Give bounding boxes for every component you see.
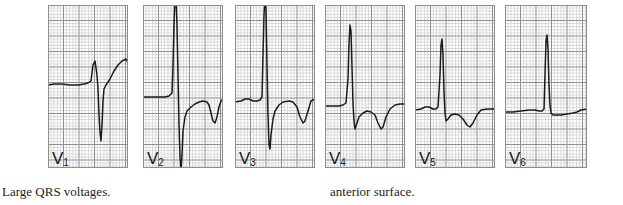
caption-right: anterior surface. bbox=[330, 184, 414, 200]
lead-letter: V bbox=[52, 149, 63, 168]
ecg-trace-v1 bbox=[48, 5, 128, 168]
lead-number: 5 bbox=[430, 157, 436, 168]
lead-number: 2 bbox=[158, 157, 164, 168]
lead-label-v1: V1 bbox=[52, 150, 69, 167]
lead-label-v2: V2 bbox=[147, 150, 164, 167]
lead-label-v4: V4 bbox=[329, 150, 346, 167]
ecg-panel-v6: V6 bbox=[505, 5, 587, 168]
lead-label-v6: V6 bbox=[509, 150, 526, 167]
ecg-panel-v4: V4 bbox=[325, 5, 405, 168]
ecg-trace-v6 bbox=[505, 5, 587, 168]
lead-number: 4 bbox=[340, 157, 346, 168]
lead-letter: V bbox=[329, 149, 340, 168]
lead-label-v5: V5 bbox=[419, 150, 436, 167]
lead-label-v3: V3 bbox=[239, 150, 256, 167]
ecg-trace-v2 bbox=[143, 5, 223, 168]
ecg-panel-v3: V3 bbox=[235, 5, 315, 168]
caption-left: Large QRS voltages. bbox=[2, 184, 110, 200]
lead-number: 1 bbox=[63, 157, 69, 168]
lead-letter: V bbox=[509, 149, 520, 168]
ecg-figure: V1V2V3V4V5V6 Large QRS voltages. anterio… bbox=[0, 0, 623, 205]
ecg-trace-v4 bbox=[325, 5, 405, 168]
ecg-panel-v2: V2 bbox=[143, 5, 223, 168]
lead-number: 3 bbox=[250, 157, 256, 168]
lead-letter: V bbox=[147, 149, 158, 168]
lead-letter: V bbox=[419, 149, 430, 168]
lead-number: 6 bbox=[520, 157, 526, 168]
ecg-trace-v5 bbox=[415, 5, 495, 168]
ecg-panel-v1: V1 bbox=[48, 5, 128, 168]
ecg-panel-v5: V5 bbox=[415, 5, 495, 168]
lead-letter: V bbox=[239, 149, 250, 168]
ecg-trace-v3 bbox=[235, 5, 315, 168]
